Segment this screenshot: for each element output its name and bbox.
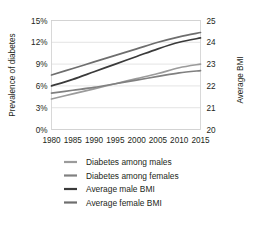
line-chart: 0%3%6%9%12%15% 202122232425 198019851990…: [0, 0, 256, 227]
y-axis-right-tick-label: 23: [207, 60, 217, 69]
y-axis-right-tick-label: 21: [207, 104, 217, 113]
x-axis-tick-labels: 19801985199019952000200520102015: [42, 136, 210, 145]
chart-figure: 0%3%6%9%12%15% 202122232425 198019851990…: [0, 0, 256, 227]
x-axis-tick-label: 1985: [64, 136, 83, 145]
series-line: [52, 38, 201, 86]
y-axis-right-title: Average BMI: [236, 56, 245, 103]
y-axis-left-tick-label: 12%: [31, 38, 47, 47]
y-axis-left-tick-label: 0%: [36, 126, 48, 135]
legend-item-label: Average female BMI: [86, 198, 162, 208]
y-axis-left-tick-labels: 0%3%6%9%12%15%: [31, 17, 47, 135]
legend-item-label: Diabetes among females: [86, 171, 179, 181]
y-axis-right-tick-label: 22: [207, 82, 217, 91]
y-axis-left-tick-label: 6%: [36, 82, 48, 91]
x-axis-tick-label: 2000: [128, 136, 147, 145]
y-axis-left-tick-label: 9%: [36, 60, 48, 69]
x-axis-tick-label: 1995: [106, 136, 125, 145]
y-axis-left-tick-label: 3%: [36, 104, 48, 113]
x-axis-tick-label: 2010: [170, 136, 189, 145]
x-axis-tick-label: 1980: [42, 136, 61, 145]
legend-item-label: Average male BMI: [86, 184, 155, 194]
x-axis-tick-label: 2015: [191, 136, 210, 145]
y-axis-right-tick-label: 25: [207, 17, 217, 26]
chart-legend: Diabetes among malesDiabetes among femal…: [64, 157, 179, 208]
series-line: [52, 71, 201, 94]
y-axis-right-tick-labels: 202122232425: [207, 17, 217, 135]
x-axis-tick-label: 1990: [85, 136, 104, 145]
y-axis-left-tick-label: 15%: [31, 17, 47, 26]
y-axis-right-tick-label: 24: [207, 38, 217, 47]
y-axis-left-title: Prevalence of diabetes: [8, 33, 17, 116]
y-axis-right-tick-label: 20: [207, 126, 217, 135]
x-axis-tick-label: 2005: [149, 136, 168, 145]
legend-item-label: Diabetes among males: [86, 157, 172, 167]
